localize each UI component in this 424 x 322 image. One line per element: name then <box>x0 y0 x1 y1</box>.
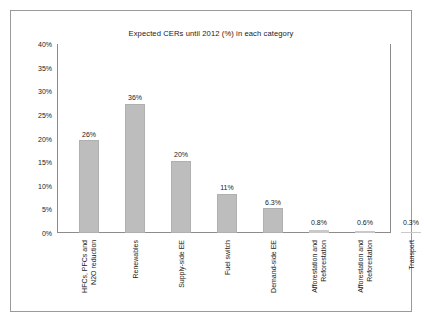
bar-hfcs[interactable] <box>79 140 99 233</box>
bar-slot-renewables: 36% Renewables <box>125 44 145 233</box>
y-axis-tick-30: 30% <box>38 88 52 95</box>
chart-figure: Expected CERs until 2012 (%) in each cat… <box>10 10 412 312</box>
bar-slot-hfcs: 26% HFCs, PFCs and N2O reduction <box>79 44 99 233</box>
bar-transport-b[interactable] <box>355 231 375 233</box>
chart-title: Expected CERs until 2012 (%) in each cat… <box>11 29 411 38</box>
bar-value-label-demand-side-ee: 6.3% <box>265 199 281 206</box>
bar-value-label-fuel-switch: 11% <box>220 184 234 191</box>
y-axis-tick-5: 5% <box>42 206 52 213</box>
bar-value-label-renewables: 36% <box>128 94 142 101</box>
y-axis-tick-20: 20% <box>38 135 52 142</box>
bar-renewables[interactable] <box>125 104 145 233</box>
bar-fuel-switch[interactable] <box>217 194 237 233</box>
x-axis-category-hfcs: HFCs, PFCs and N2O reduction <box>80 240 98 293</box>
x-axis-category-afforestation: Afforestation and Reforestation <box>310 240 328 293</box>
x-axis-category-fuel-switch: Fuel switch <box>223 240 232 275</box>
y-axis-tick-25: 25% <box>38 111 52 118</box>
y-axis-tick-15: 15% <box>38 159 52 166</box>
bar-slot-afforestation: 0.8% Afforestation and Reforestation <box>309 44 329 233</box>
bar-supply-side-ee[interactable] <box>171 161 191 233</box>
bar-demand-side-ee[interactable] <box>263 208 283 233</box>
bar-value-label-afforestation: 0.8% <box>311 219 327 226</box>
bar-slot-demand-side-ee: 6.3% Demand-side EE <box>263 44 283 233</box>
y-axis-tick-0: 0% <box>42 230 52 237</box>
x-axis-category-transport: Transport <box>407 240 416 270</box>
plot-right-border <box>390 44 391 233</box>
bar-slot-transport-b: 0.6% Afforestation and Reforestation <box>355 44 375 233</box>
bar-value-label-supply-side-ee: 20% <box>174 151 188 158</box>
bar-slot-fuel-switch: 11% Fuel switch <box>217 44 237 233</box>
bar-value-label-hfcs: 26% <box>82 131 96 138</box>
x-axis-category-demand-side-ee: Demand-side EE <box>269 240 278 293</box>
x-axis-category-supply-side-ee: Supply-side EE <box>177 240 186 288</box>
y-axis-tick-40: 40% <box>38 41 52 48</box>
bar-value-label-transport-b: 0.6% <box>357 219 373 226</box>
bar-afforestation[interactable] <box>309 230 329 233</box>
y-axis-line <box>57 44 58 233</box>
bar-slot-transport: 0.3% Transport <box>401 44 421 233</box>
plot-area: 40% 35% 30% 25% 20% 15% 10% 5% 0% 26% HF… <box>57 44 391 233</box>
bar-transport[interactable] <box>401 232 421 233</box>
y-axis-tick-35: 35% <box>38 64 52 71</box>
bar-slot-supply-side-ee: 20% Supply-side EE <box>171 44 191 233</box>
bar-value-label-transport: 0.3% <box>403 219 419 226</box>
x-axis-category-afforestation-2: Afforestation and Reforestation <box>356 240 374 293</box>
y-axis-tick-10: 10% <box>38 182 52 189</box>
x-axis-category-renewables: Renewables <box>131 240 140 279</box>
